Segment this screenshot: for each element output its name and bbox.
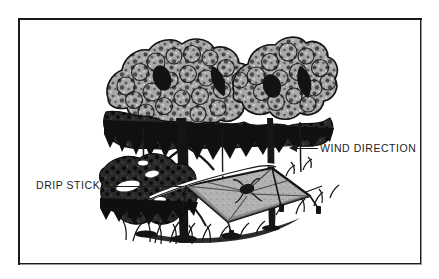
drip-stick-leader-line — [107, 186, 183, 188]
wind-direction-leader-line — [296, 148, 318, 150]
shelter-illustration — [0, 0, 439, 279]
wind-direction-label: WIND DIRECTION — [320, 143, 416, 154]
tree-canopy — [104, 37, 338, 160]
understory-shrubs — [100, 154, 199, 225]
drip-stick-label: DRIP STICK — [36, 180, 100, 191]
figure-root: WIND DIRECTION DRIP STICK — [0, 0, 439, 279]
